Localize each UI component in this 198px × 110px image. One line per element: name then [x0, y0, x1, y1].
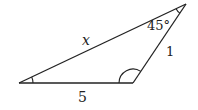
top-angle-arc — [176, 9, 180, 13]
side-5-label: 5 — [78, 89, 87, 105]
side-x-label: x — [82, 32, 90, 48]
side-1-label: 1 — [166, 44, 174, 59]
top-angle-label: 45° — [147, 18, 170, 33]
left-angle-arc — [32, 77, 33, 83]
side-x — [19, 4, 186, 83]
triangle-diagram: x 45° 1 5 — [0, 0, 198, 110]
